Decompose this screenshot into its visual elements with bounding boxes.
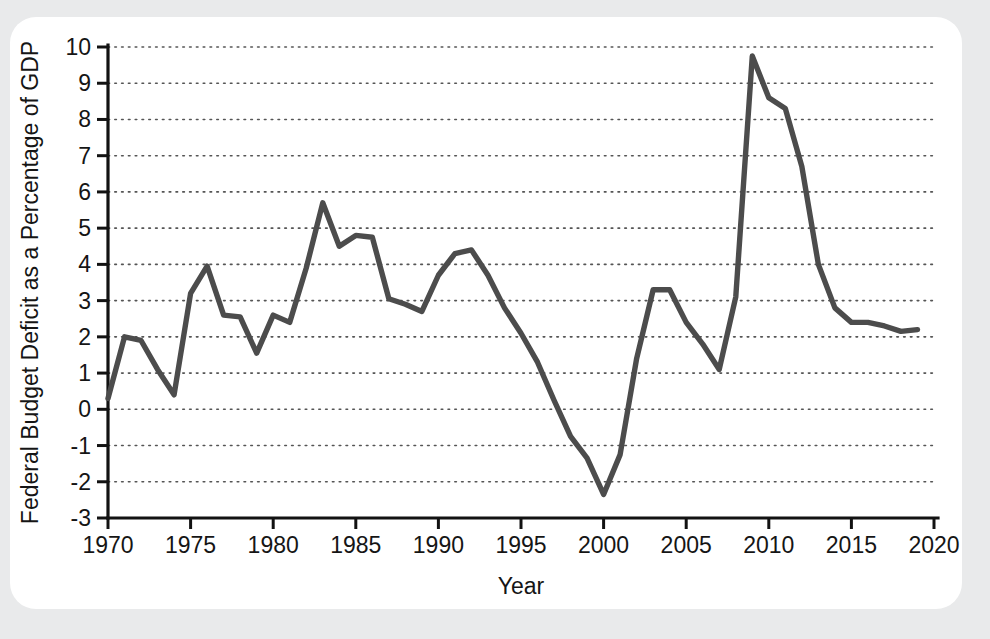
y-tick-label-4: 4: [78, 251, 91, 277]
y-tick-label-3: 3: [78, 288, 91, 314]
x-tick-label-1970: 1970: [82, 532, 133, 558]
x-axis-title: Year: [498, 573, 545, 599]
x-tick-label-2000: 2000: [578, 532, 629, 558]
x-tick-label-1985: 1985: [330, 532, 381, 558]
x-tick-label-1995: 1995: [495, 532, 546, 558]
y-axis-tick-labels: -3-2-1012345678910: [65, 34, 91, 531]
grid-lines: [108, 47, 934, 482]
y-tick-label--2: -2: [71, 469, 91, 495]
x-tick-label-2015: 2015: [826, 532, 877, 558]
page-root: -3-2-1012345678910 197019751980198519901…: [0, 0, 990, 639]
x-tick-label-1980: 1980: [248, 532, 299, 558]
y-tick-label-6: 6: [78, 179, 91, 205]
x-axis-ticks: [108, 518, 934, 529]
x-axis-tick-labels: 1970197519801985199019952000200520102015…: [82, 532, 959, 558]
y-tick-label-9: 9: [78, 70, 91, 96]
federal-budget-deficit-chart: -3-2-1012345678910 197019751980198519901…: [10, 17, 962, 609]
y-tick-label-5: 5: [78, 215, 91, 241]
x-tick-label-1975: 1975: [165, 532, 216, 558]
y-tick-label-2: 2: [78, 324, 91, 350]
x-tick-label-1990: 1990: [413, 532, 464, 558]
y-tick-label-0: 0: [78, 396, 91, 422]
y-tick-label-7: 7: [78, 143, 91, 169]
chart-svg: -3-2-1012345678910 197019751980198519901…: [10, 17, 962, 609]
chart-card: -3-2-1012345678910 197019751980198519901…: [10, 17, 962, 609]
y-tick-label-8: 8: [78, 106, 91, 132]
y-axis-title: Federal Budget Deficit as a Percentage o…: [17, 41, 43, 524]
y-axis-ticks: [97, 47, 108, 518]
y-tick-label-1: 1: [78, 360, 91, 386]
y-tick-label--1: -1: [71, 433, 91, 459]
y-tick-label-10: 10: [65, 34, 91, 60]
x-tick-label-2005: 2005: [661, 532, 712, 558]
x-tick-label-2020: 2020: [908, 532, 959, 558]
x-tick-label-2010: 2010: [743, 532, 794, 558]
y-tick-label--3: -3: [71, 505, 91, 531]
deficit-series-line: [108, 56, 917, 494]
